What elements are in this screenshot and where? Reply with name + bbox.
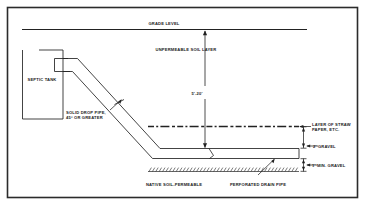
- diagram-canvas: GRADE LEVEL UNPERMEABLE SOIL LAYER SEPTI…: [0, 0, 365, 205]
- layer-of-straw-label-line1: LAYER OF STRAW: [312, 122, 351, 127]
- native-soil-label: NATIVE SOIL-PERMEABLE: [146, 182, 202, 187]
- septic-drainfield-diagram: GRADE LEVEL UNPERMEABLE SOIL LAYER SEPTI…: [0, 0, 365, 205]
- perforated-drain-pipe-label: PERFORATED DRAIN PIPE: [230, 182, 286, 187]
- solid-drop-pipe-label-line2: 45° OR GREATER: [66, 115, 103, 120]
- paper-background: [0, 0, 365, 205]
- gravel-two-foot-label: 2' GRAVEL: [313, 144, 336, 149]
- gravel-one-foot-min-label: 1' MIN. GRAVEL: [312, 163, 346, 168]
- unpermeable-soil-layer-label: UNPERMEABLE SOIL LAYER: [156, 47, 217, 52]
- depth-dimension-label: 5'-20': [191, 91, 202, 96]
- solid-drop-pipe-label-line1: SOLID DROP PIPE,: [66, 110, 106, 115]
- grade-level-label: GRADE LEVEL: [148, 21, 179, 26]
- septic-tank-label: SEPTIC TANK: [28, 77, 57, 82]
- layer-of-straw-label-line2: PAPER, ETC.: [312, 127, 339, 132]
